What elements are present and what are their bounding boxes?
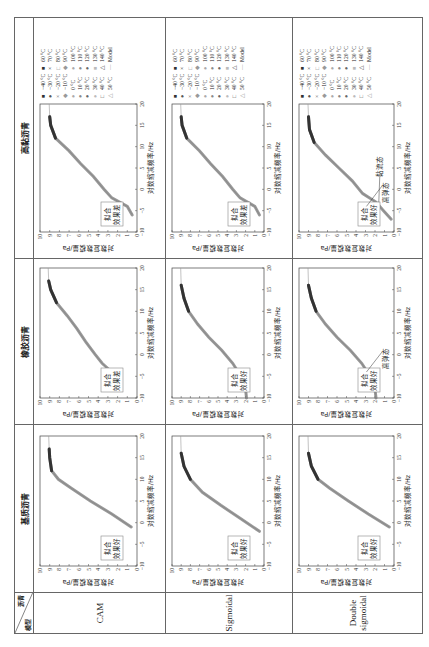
legend-marker-icon: ■: [299, 90, 306, 98]
svg-text:0: 0: [139, 521, 145, 524]
svg-text:5: 5: [86, 234, 92, 237]
legend-item: ●120 °C: [216, 46, 223, 70]
legend-item: □40 °C: [231, 74, 238, 98]
corner-label-asphalt: 沥青: [16, 595, 25, 607]
svg-text:10: 10: [266, 144, 272, 150]
svg-text:对数复数模量/Pa: 对数复数模量/Pa: [192, 578, 244, 587]
svg-text:拟合: 拟合: [103, 207, 112, 221]
legend-label: 10 °C: [77, 77, 83, 90]
legend-item: □80 °C: [187, 46, 194, 70]
svg-text:拟合: 拟合: [360, 207, 369, 221]
svg-text:6: 6: [206, 400, 212, 403]
svg-text:3: 3: [363, 234, 369, 237]
legend-item: ◆90 °C: [321, 46, 328, 70]
svg-text:4: 4: [353, 234, 359, 237]
svg-text:10: 10: [266, 476, 272, 482]
svg-text:3: 3: [105, 568, 111, 571]
legend-marker-icon: ●: [202, 90, 209, 98]
svg-text:−5: −5: [266, 541, 272, 547]
svg-text:6: 6: [206, 568, 212, 571]
svg-text:20: 20: [266, 101, 272, 107]
legend-marker-icon: ●: [224, 90, 231, 98]
svg-text:6: 6: [206, 234, 212, 237]
svg-text:10: 10: [139, 144, 145, 150]
chart-double-sigmoidal-high-viscosity: 012345678910−10−505101520对数缩减频率/Hz对数复数模量…: [293, 18, 423, 259]
legend-item: ●10 °C: [209, 74, 216, 98]
legend-marker-icon: ●: [209, 90, 216, 98]
svg-text:10: 10: [396, 144, 402, 150]
temperature-legend: ■−40 °C●−30 °C×−20 °C◆−10 °C●0 °C●10 °C●…: [172, 46, 246, 98]
row-label-sigmoidal: Sigmoidal: [166, 593, 293, 634]
legend-marker-icon: △: [366, 90, 373, 98]
svg-text:7: 7: [325, 234, 331, 237]
svg-text:3: 3: [105, 234, 111, 237]
svg-text:4: 4: [353, 400, 359, 403]
legend-item: □80 °C: [55, 46, 62, 70]
svg-text:−5: −5: [266, 373, 272, 379]
svg-text:4: 4: [224, 234, 230, 237]
svg-text:拟合: 拟合: [360, 541, 369, 555]
legend-item: ■−40 °C: [40, 74, 47, 98]
legend-item: ●0 °C: [329, 74, 336, 98]
legend-item: ×−20 °C: [55, 74, 62, 98]
legend-item: ◆90 °C: [62, 46, 69, 70]
legend-item: ●110 °C: [77, 46, 84, 70]
master-curve-chart: 012345678910−10−505101520对数缩减频率/Hz对数复数模量…: [293, 424, 422, 592]
legend-label: 0 °C: [70, 80, 76, 90]
legend-label: 70 °C: [179, 49, 185, 62]
legend-item: ●10 °C: [336, 74, 343, 98]
legend-label: 100 °C: [202, 46, 208, 62]
svg-text:8: 8: [187, 234, 193, 237]
svg-text:−5: −5: [266, 207, 272, 213]
svg-text:3: 3: [105, 400, 111, 403]
svg-text:10: 10: [296, 234, 302, 240]
legend-item: ●30 °C: [351, 74, 358, 98]
svg-text:效果差: 效果差: [112, 370, 121, 391]
legend-marker-icon: ×: [314, 90, 321, 98]
chart-sigmoidal-rubber: 012345678910−10−505101520对数缩减频率/Hz对数复数模量…: [166, 259, 293, 425]
legend-label: 90 °C: [194, 49, 200, 62]
legend-label: 10 °C: [336, 77, 342, 90]
legend-item: ●100 °C: [329, 46, 336, 70]
legend-item: ■130 °C: [351, 46, 358, 70]
legend-item: ●0 °C: [202, 74, 209, 98]
svg-text:对数复数模量/Pa: 对数复数模量/Pa: [192, 410, 244, 419]
legend-item: ●120 °C: [343, 46, 350, 70]
legend-label: 90 °C: [62, 49, 68, 62]
legend-item: △140 °C: [99, 46, 106, 70]
svg-text:0: 0: [139, 353, 145, 356]
legend-item: ●30 °C: [92, 74, 99, 98]
legend-marker-icon: ●: [47, 90, 54, 98]
svg-text:10: 10: [37, 400, 43, 406]
legend-item: ■−40 °C: [172, 74, 179, 98]
legend-label: 120 °C: [84, 46, 90, 62]
row-label-cam: CAM: [34, 593, 166, 634]
legend-label: 100 °C: [329, 46, 335, 62]
svg-text:4: 4: [95, 400, 101, 403]
legend-item: ●20 °C: [84, 74, 91, 98]
svg-text:5: 5: [139, 331, 145, 334]
legend-marker-icon: ■: [92, 62, 99, 70]
chart-cam-high-viscosity: 012345678910−10−505101520对数缩减频率/Hz对数复数模量…: [34, 18, 166, 259]
legend-label: −30 °C: [179, 74, 185, 90]
legend-label: 30 °C: [224, 77, 230, 90]
svg-text:4: 4: [224, 400, 230, 403]
legend-marker-icon: ●: [77, 90, 84, 98]
svg-text:10: 10: [296, 400, 302, 406]
legend-marker-icon: ●: [343, 90, 350, 98]
legend-item: ●100 °C: [70, 46, 77, 70]
svg-text:10: 10: [169, 400, 175, 406]
svg-text:对数缩减频率/Hz: 对数缩减频率/Hz: [403, 306, 412, 359]
legend-item: —Model: [366, 46, 373, 70]
legend-label: 30 °C: [92, 77, 98, 90]
legend-label: 60 °C: [40, 49, 46, 62]
svg-text:−5: −5: [396, 207, 402, 213]
svg-text:3: 3: [233, 234, 239, 237]
svg-text:对数复数模量/Pa: 对数复数模量/Pa: [63, 410, 115, 419]
svg-text:2: 2: [243, 568, 249, 571]
legend-label: −20 °C: [314, 74, 320, 90]
master-curve-chart: 012345678910−10−505101520对数缩减频率/Hz对数复数模量…: [34, 424, 165, 592]
svg-text:对数缩减频率/Hz: 对数缩减频率/Hz: [146, 474, 155, 527]
legend-label: 20 °C: [343, 77, 349, 90]
svg-text:效果差: 效果差: [239, 204, 248, 225]
